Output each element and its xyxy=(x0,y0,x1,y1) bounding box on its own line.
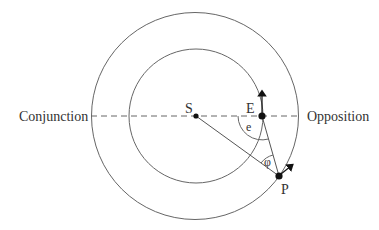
planet-velocity-arrow xyxy=(281,166,291,174)
sun-label: S xyxy=(185,101,193,116)
planet-dot xyxy=(275,172,282,179)
earth-dot xyxy=(258,112,265,119)
opposition-label: Opposition xyxy=(307,109,369,124)
elongation-angle-label: e xyxy=(246,120,251,134)
elongation-arc xyxy=(238,116,269,140)
conjunction-label: Conjunction xyxy=(19,109,88,124)
orbital-diagram: S E P Conjunction Opposition e φ xyxy=(0,0,379,230)
phase-angle-label: φ xyxy=(264,155,271,169)
sun-dot xyxy=(193,113,198,118)
earth-label: E xyxy=(246,101,255,116)
planet-label: P xyxy=(281,182,289,197)
